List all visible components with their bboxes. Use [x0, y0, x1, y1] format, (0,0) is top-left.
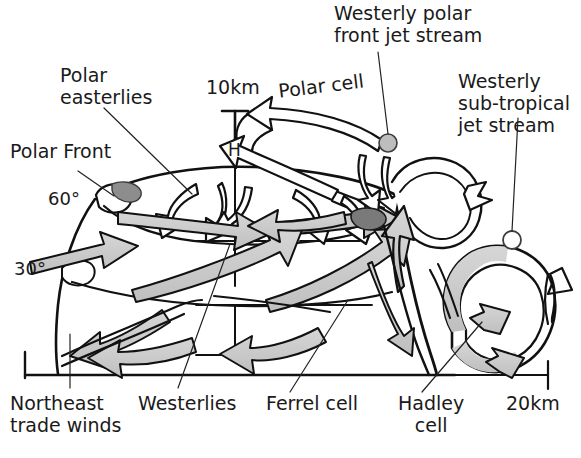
- arrow-descending-right: [368, 262, 414, 356]
- label-westerly-polar-front-jet-stream: Westerly polar front jet stream: [334, 2, 482, 46]
- polar-front-jet-marker: [379, 134, 397, 152]
- label-polar-easterlies: Polar easterlies: [60, 64, 152, 108]
- label-westerly-sub-tropical-jet-stream: Westerly sub-tropical jet stream: [458, 70, 570, 136]
- figure-canvas: Polar easterlies Polar Front 60° 30° 10k…: [0, 0, 581, 458]
- hadley-cell-loop: [444, 246, 572, 378]
- polar-front-marker: [96, 182, 141, 213]
- label-latitude-60: 60°: [48, 188, 80, 210]
- leader-polar-front-jet: [378, 52, 388, 134]
- label-ferrel-cell: Ferrel cell: [266, 392, 358, 414]
- label-latitude-30: 30°: [14, 258, 46, 280]
- label-altitude-20km: 20km: [506, 392, 560, 414]
- subtropical-jet-marker: [503, 231, 521, 249]
- label-northeast-trade-winds: Northeast trade winds: [10, 392, 122, 436]
- arrow-polar-easterlies-upper: [118, 212, 272, 250]
- label-pressure-high: H: [228, 139, 241, 161]
- label-polar-front: Polar Front: [10, 140, 111, 162]
- leader-polar-easterlies: [104, 108, 192, 194]
- label-hadley-cell: Hadley cell: [398, 392, 464, 436]
- label-westerlies: Westerlies: [138, 392, 236, 414]
- leader-polar-front: [78, 171, 114, 196]
- label-altitude-10km: 10km: [206, 76, 260, 98]
- polar-front-convergence-blob: [351, 208, 386, 230]
- leader-westerlies: [178, 244, 230, 388]
